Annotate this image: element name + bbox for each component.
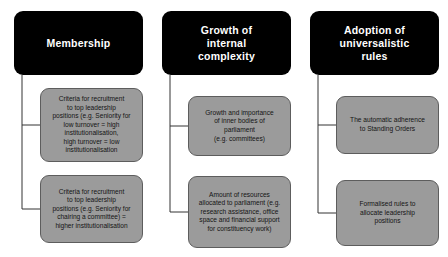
item-box: Growth and importance of inner bodies of… [188,96,291,156]
column-header-internal-complexity: Growth of internal complexity [162,11,291,75]
diagram-column-internal-complexity: Growth of internal complexity Growth and… [148,0,296,257]
institutionalisation-diagram: Membership Criteria for recruitment to t… [0,0,448,257]
column-header-label: Growth of internal complexity [198,24,255,63]
column-header-membership: Membership [14,11,143,75]
diagram-column-membership: Membership Criteria for recruitment to t… [0,0,148,257]
item-label: Amount of resources allocated to parliam… [199,191,280,234]
item-box: Criteria for recruitment to top leadersh… [40,88,143,162]
item-box: Criteria for recruitment to top leadersh… [40,175,143,243]
item-box: Formalised rules to allocate leadership … [336,180,439,246]
diagram-column-universalistic-rules: Adoption of universalistic rules The aut… [296,0,444,257]
item-box: Amount of resources allocated to parliam… [188,176,291,248]
column-header-label: Adoption of universalistic rules [340,24,410,63]
item-label: Growth and importance of inner bodies of… [205,109,274,143]
item-box: The automatic adherence to Standing Orde… [336,96,439,154]
item-label: Formalised rules to allocate leadership … [359,200,415,226]
item-label: Criteria for recruitment to top leadersh… [52,188,130,231]
item-label: The automatic adherence to Standing Orde… [350,116,425,133]
item-label: Criteria for recruitment to top leadersh… [52,95,130,155]
column-header-label: Membership [47,37,111,50]
column-header-universalistic-rules: Adoption of universalistic rules [310,11,439,75]
